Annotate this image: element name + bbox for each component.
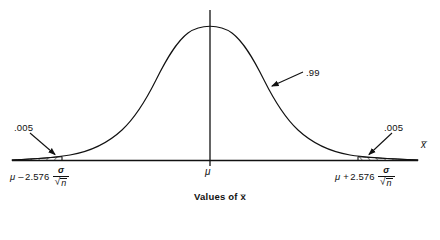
left-crit-sign: – [18,172,23,182]
left-crit-mu: μ [10,172,15,182]
right-prob-leader-arrow [369,133,392,155]
right-crit-mu: μ [335,172,340,182]
central-probability-label: .99 [306,68,320,78]
right-crit-fraction: σ √n [378,166,395,188]
right-critical-value-label: μ + 2.576 σ √n [335,166,395,188]
left-crit-radicand: n [60,178,67,188]
left-crit-coefficient: 2.576 [25,172,49,182]
left-prob-leader-arrow [30,133,55,155]
right-crit-coefficient: 2.576 [350,172,374,182]
left-crit-numerator: σ [56,166,66,176]
right-tail-probability-label: .005 [384,123,403,133]
right-crit-denominator: √n [378,177,395,188]
right-crit-sign: + [343,172,349,182]
mean-label: μ [205,167,210,177]
left-critical-value-label: μ – 2.576 σ √n [10,166,69,188]
figure-caption: Values of x̅ [0,192,440,202]
left-tail-probability-label: .005 [14,123,33,133]
left-crit-denominator: √n [53,177,70,188]
left-crit-fraction: σ √n [53,166,70,188]
right-crit-radicand: n [386,178,393,188]
central-prob-leader-arrow [272,72,303,86]
right-crit-numerator: σ [381,166,391,176]
normal-curve [12,26,418,160]
axis-variable-label: x̅ [421,140,426,150]
